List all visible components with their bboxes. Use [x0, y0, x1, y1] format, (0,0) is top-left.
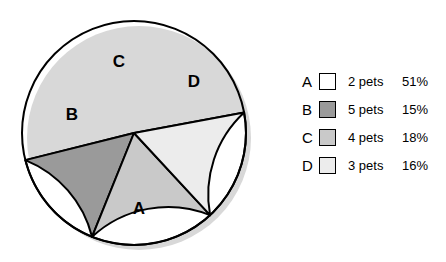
- chart-legend: A2 pets51%B5 pets15%C4 pets18%D3 pets16%: [302, 67, 442, 179]
- pie-slice-label-b: B: [66, 105, 78, 124]
- legend-swatch-d: [319, 157, 336, 174]
- legend-percent-d: 16%: [396, 158, 428, 173]
- legend-count-c: 4 pets: [348, 130, 396, 145]
- legend-row-d[interactable]: D3 pets16%: [302, 151, 442, 179]
- pie-slice-label-c: C: [113, 52, 125, 71]
- legend-key-d: D: [302, 158, 317, 173]
- legend-count-a: 2 pets: [348, 74, 396, 89]
- legend-swatch-b: [319, 101, 336, 118]
- pie-chart-plot-area: ABCD: [0, 0, 270, 262]
- pie-slice-label-a: A: [133, 199, 145, 218]
- legend-percent-c: 18%: [396, 130, 428, 145]
- legend-key-c: C: [302, 130, 317, 145]
- pie-chart-svg: ABCD: [0, 0, 270, 262]
- legend-percent-a: 51%: [396, 74, 428, 89]
- legend-row-a[interactable]: A2 pets51%: [302, 67, 442, 95]
- legend-key-b: B: [302, 102, 317, 117]
- legend-key-a: A: [302, 74, 317, 89]
- legend-swatch-a: [319, 73, 336, 90]
- pie-chart-figure: ABCD A2 pets51%B5 pets15%C4 pets18%D3 pe…: [0, 0, 446, 262]
- legend-row-c[interactable]: C4 pets18%: [302, 123, 442, 151]
- legend-count-b: 5 pets: [348, 102, 396, 117]
- pie-slice-label-d: D: [188, 72, 200, 91]
- legend-percent-b: 15%: [396, 102, 428, 117]
- legend-swatch-c: [319, 129, 336, 146]
- legend-count-d: 3 pets: [348, 158, 396, 173]
- legend-row-b[interactable]: B5 pets15%: [302, 95, 442, 123]
